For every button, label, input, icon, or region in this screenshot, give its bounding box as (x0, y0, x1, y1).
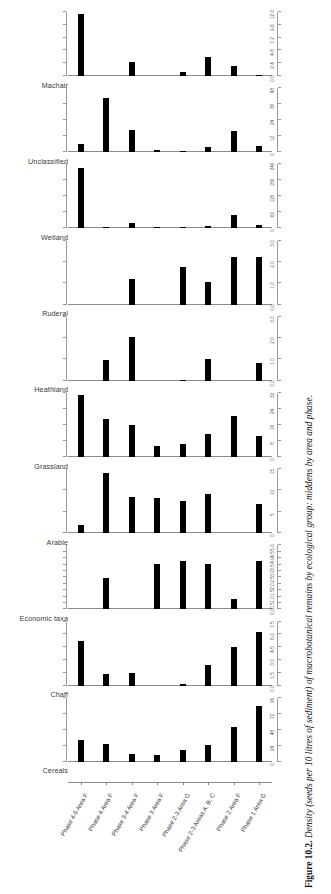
bar-series (68, 469, 272, 533)
bar (205, 359, 211, 380)
axis-tick (63, 576, 66, 577)
bar (256, 146, 262, 153)
y-tick-label: 72 (270, 714, 275, 719)
figure-caption: Figure 10.2. Density (seeds per 10 litre… (299, 0, 329, 894)
y-tick-label: 24 (270, 120, 275, 125)
bar-series (68, 393, 272, 457)
y-tick-label: 15 (270, 469, 275, 474)
bar (231, 257, 237, 304)
y-axis-tick-labels: 060120180240 (266, 164, 280, 228)
plot-area: 0.01.53.04.56.07.5 (68, 622, 272, 686)
y-tick-label: 0.0 (270, 304, 275, 310)
bar-series (68, 698, 272, 762)
y-tick-label: 7.5 (270, 621, 275, 627)
y-axis-tick-labels: 024487296 (266, 698, 280, 762)
bar (231, 66, 237, 76)
axis-tick (63, 75, 66, 76)
bar (129, 62, 135, 76)
x-axis-label-text: Phase 1 Area G (239, 790, 268, 833)
axis-tick (63, 551, 66, 552)
bar (180, 684, 186, 685)
y-tick-label: 4.0 (270, 557, 275, 563)
bar (78, 168, 84, 229)
y-tick-label: 0.5 (270, 602, 275, 608)
y-tick-label: 36 (270, 104, 275, 109)
caption-label: Figure 10.2. (304, 840, 314, 888)
bar (78, 525, 84, 533)
x-axis-labels: Phase 4-5 Area FPhase 4 Area FPhase 3-4 … (68, 790, 272, 890)
axis-tick (63, 424, 66, 425)
bar (256, 363, 262, 381)
y-tick-label: 180 (270, 179, 275, 187)
y-tick-label: 24 (270, 746, 275, 751)
x-axis-tick (132, 782, 133, 785)
bar (256, 225, 262, 228)
y-tick-label: 12.0 (270, 10, 275, 19)
y-tick-label: 1.0 (270, 359, 275, 365)
axis-tick (63, 745, 66, 746)
axis-tick (63, 179, 66, 180)
panel-ruderal: Ruderal0.01.02.03.0 (0, 237, 292, 313)
y-tick-label: 0.0 (270, 75, 275, 81)
axis-tick (63, 49, 66, 50)
axis-tick (63, 685, 66, 686)
bar (154, 150, 160, 152)
y-tick-label: 0.0 (270, 380, 275, 386)
y-tick-label: 3.0 (270, 240, 275, 246)
y-tick-label: 1.0 (270, 283, 275, 289)
bar (256, 504, 262, 533)
bar (180, 227, 186, 228)
y-axis-tick-labels: 0.02.44.87.29.612.0 (266, 12, 280, 76)
axis-tick (63, 227, 66, 228)
bar (205, 57, 211, 76)
bar (180, 561, 186, 609)
panel-wetland: Wetland060120180240 (0, 160, 292, 236)
bar (256, 561, 262, 610)
bar-series (68, 545, 272, 609)
bar-series (68, 622, 272, 686)
y-tick-label: 8 (270, 442, 275, 445)
axis-tick (63, 489, 66, 490)
left-axis (66, 88, 67, 152)
y-tick-label: 5.0 (270, 545, 275, 551)
figure-root: Machair0.02.44.87.29.612.0Unclassified01… (0, 0, 331, 894)
bar (129, 279, 135, 305)
bar (129, 425, 135, 457)
bar (205, 434, 211, 457)
axis-tick (63, 697, 66, 698)
panel-unclassified: Unclassified012243648 (0, 84, 292, 160)
y-tick-label: 60 (270, 212, 275, 217)
bar (129, 497, 135, 533)
left-axis (66, 317, 67, 381)
plot-area: 08162432 (68, 393, 272, 457)
caption-text: Density (seeds per 10 litres of sediment… (304, 395, 314, 840)
bar (231, 599, 237, 609)
bar (78, 740, 84, 762)
left-axis (66, 164, 67, 228)
y-tick-label: 2.5 (270, 577, 275, 583)
bar (129, 673, 135, 686)
plot-area: 051015 (68, 469, 272, 533)
y-tick-label: 1.5 (270, 672, 275, 678)
x-axis-tick (106, 782, 107, 785)
axis-tick (63, 24, 66, 25)
y-tick-label: 7.2 (270, 37, 275, 43)
x-axis-label-text: Phase 4-5 Area F (59, 790, 90, 837)
bar (78, 14, 84, 76)
axis-tick (63, 564, 66, 565)
bar-series (68, 12, 272, 76)
panel-machair: Machair0.02.44.87.29.612.0 (0, 8, 292, 84)
bar-series (68, 88, 272, 152)
axis-tick (63, 37, 66, 38)
y-tick-label: 16 (270, 425, 275, 430)
bar (231, 416, 237, 457)
plot-area: 024487296 (68, 698, 272, 762)
axis-tick (63, 633, 66, 634)
axis-tick (63, 583, 66, 584)
bar (180, 380, 186, 381)
panel-heathland: Heathland0.01.02.03.0 (0, 313, 292, 389)
panel-stack: Machair0.02.44.87.29.612.0Unclassified01… (0, 8, 292, 770)
y-tick-label: 1.0 (270, 596, 275, 602)
axis-tick (63, 316, 66, 317)
left-axis (66, 241, 67, 305)
